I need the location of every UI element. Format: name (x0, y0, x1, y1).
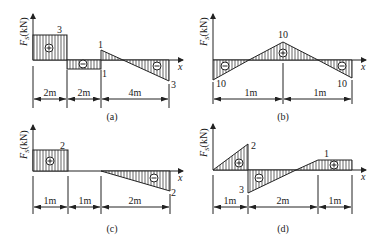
caption: (c) (106, 223, 117, 235)
dimension-label: 4m (129, 87, 142, 98)
dimension-label: 2m (277, 195, 290, 206)
value-label: 2 (60, 140, 65, 151)
panel-c: FS(kN) x 2 2 1m 1m 2m (c) (18, 125, 183, 235)
x-axis-label: x (177, 172, 183, 183)
y-axis-label: FS(kN) (198, 129, 211, 159)
value-label: 10 (278, 29, 288, 40)
panel-d: FS(kN) x 2 3 1 1m 2m 1m (d) (198, 124, 366, 235)
shear-force-diagrams-figure: FS(kN) x 3 1 1 3 2m 2m 4m (a) FS(kN) x (0, 0, 383, 241)
value-label: 10 (337, 78, 347, 89)
minus-sign-icon (338, 62, 346, 70)
caption: (d) (277, 223, 289, 235)
value-label: 3 (57, 24, 62, 35)
caption: (b) (277, 111, 289, 123)
plus-sign-icon (46, 157, 54, 165)
dimension-label: 1m (245, 87, 258, 98)
minus-sign-icon (79, 60, 87, 68)
negative-region (123, 60, 169, 81)
plus-sign-icon (279, 49, 287, 57)
dimension-label: 1m (329, 195, 342, 206)
value-label: 3 (239, 184, 244, 195)
negative-region (318, 60, 352, 78)
dimension-label: 1m (79, 195, 92, 206)
negative-region (248, 170, 296, 193)
panel-a: FS(kN) x 3 1 1 3 2m 2m 4m (a) (18, 14, 183, 123)
dimension-label: 1m (314, 87, 327, 98)
value-label: 10 (216, 78, 226, 89)
x-axis-label: x (360, 171, 366, 182)
panel-b: FS(kN) x 10 10 10 1m 1m (b) (198, 14, 366, 123)
y-axis-label: FS(kN) (18, 131, 31, 161)
caption: (a) (106, 111, 117, 123)
dimension-label: 2m (44, 87, 57, 98)
value-label: 2 (251, 140, 256, 151)
value-label: 2 (171, 187, 176, 198)
x-axis-label: x (360, 61, 366, 72)
y-axis-label: FS(kN) (198, 18, 211, 48)
minus-sign-icon (221, 62, 229, 70)
dimension-label: 1m (44, 195, 57, 206)
value-label: 1 (324, 148, 329, 159)
minus-sign-icon (153, 62, 161, 70)
value-label: 1 (98, 39, 103, 50)
minus-sign-icon (150, 174, 158, 182)
minus-sign-icon (255, 174, 263, 182)
y-axis-label: FS(kN) (18, 18, 31, 48)
plus-sign-icon (330, 161, 338, 169)
dimension-label: 2m (78, 87, 91, 98)
value-label: 3 (171, 79, 176, 90)
dimension-label: 1m (224, 195, 237, 206)
negative-region (213, 60, 249, 80)
negative-region (101, 171, 170, 191)
plus-sign-icon (235, 159, 243, 167)
dimension-label: 2m (129, 195, 142, 206)
positive-region (213, 144, 248, 170)
x-axis-label: x (177, 61, 183, 72)
positive-region (296, 160, 352, 170)
value-label: 1 (102, 68, 107, 79)
plus-sign-icon (45, 44, 53, 52)
positive-region (101, 50, 123, 60)
